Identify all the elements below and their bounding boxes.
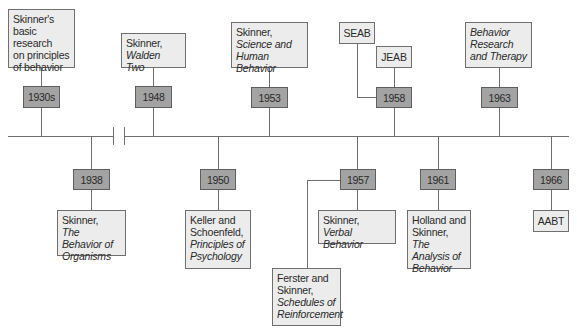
event-title: Science and — [236, 38, 292, 50]
year-box-1957: 1957 — [340, 169, 376, 190]
event-text: Holland and — [412, 214, 466, 226]
event-text: Skinner, — [236, 26, 303, 38]
event-box-seab: SEAB — [339, 22, 375, 44]
event-text: Ferster and — [277, 272, 336, 284]
event-title: Principles of — [190, 238, 245, 250]
event-text: on principles — [13, 49, 70, 61]
event-text: Schoenfeld, — [190, 226, 246, 238]
event-text: Skinner's — [13, 13, 70, 25]
year-box-1966: 1966 — [533, 169, 569, 190]
axis-break-mark-left — [113, 127, 114, 145]
event-box-verbal-behavior: Skinner, Verbal Behavior — [318, 210, 396, 244]
event-text: Skinner, — [412, 226, 448, 238]
event-box-jeab: JEAB — [376, 46, 412, 68]
timeline-axis-left — [8, 136, 113, 137]
event-text: Keller and — [190, 214, 246, 226]
year-box-1958: 1958 — [376, 87, 412, 108]
event-box-schedules-of-reinforcement: Ferster and Skinner, Schedules of Reinfo… — [272, 268, 341, 326]
event-title: Behavior — [470, 26, 510, 38]
event-title: Verbal Behavior — [323, 226, 363, 250]
event-text: of behavior — [13, 61, 70, 73]
event-text: basic research — [13, 25, 70, 49]
event-title: Reinforcement — [277, 308, 343, 320]
event-title: Walden Two — [126, 49, 160, 73]
event-title: Therapy — [490, 50, 527, 62]
connector-seab-horizontal — [357, 97, 376, 98]
event-box-behavior-of-organisms: Skinner, The Behavior of Organisms — [57, 210, 126, 256]
event-title: The Behavior — [62, 226, 102, 250]
event-box-aabt: AABT — [533, 210, 569, 232]
year-box-1950: 1950 — [200, 169, 236, 190]
event-title: Psychology — [190, 250, 242, 262]
event-box-principles-of-psychology: Keller and Schoenfeld, Principles of Psy… — [185, 210, 251, 269]
event-box-analysis-of-behavior: Holland and Skinner, The Analysis of Beh… — [407, 210, 471, 269]
year-box-1938: 1938 — [73, 169, 110, 190]
event-box-science-human-behavior: Skinner, Science and Human Behavior — [231, 22, 308, 68]
event-title: Human Behavior — [236, 50, 276, 74]
event-box-skinner-basic-research: Skinner's basic research on principles o… — [8, 9, 75, 68]
event-text: Skinner, — [277, 284, 336, 296]
year-box-1963: 1963 — [481, 87, 518, 108]
event-title: Schedules of — [277, 296, 335, 308]
year-box-1953: 1953 — [251, 87, 288, 108]
year-box-1948: 1948 — [135, 86, 172, 108]
event-box-walden-two: Skinner, Walden Two — [121, 33, 186, 68]
timeline-axis-right — [124, 136, 569, 137]
year-box-1961: 1961 — [420, 169, 456, 190]
event-text: Skinner, — [126, 37, 181, 49]
event-box-behavior-research-therapy: Behavior Research and Therapy — [465, 22, 532, 68]
year-box-1930s: 1930s — [23, 86, 60, 108]
connector-ferster-horizontal — [307, 180, 340, 181]
event-text: Skinner, — [323, 214, 391, 226]
event-title: Behavior — [412, 262, 452, 274]
event-text: Skinner, — [62, 214, 121, 226]
event-title: Analysis of — [412, 250, 461, 262]
connector-seab-vertical — [357, 44, 358, 97]
connector-ferster-vertical — [307, 180, 308, 268]
axis-break-mark-right — [124, 127, 125, 145]
event-title: The — [412, 238, 430, 250]
event-text-mixed: Skinner, The — [412, 226, 466, 250]
